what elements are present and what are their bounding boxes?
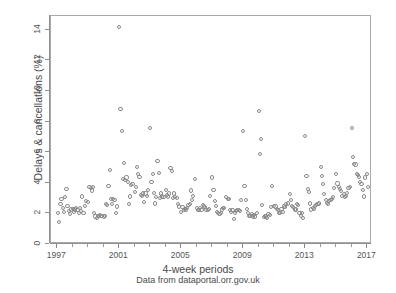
data-point — [124, 175, 128, 179]
data-point — [232, 217, 236, 221]
data-point — [227, 197, 231, 201]
data-point — [149, 180, 153, 184]
data-point — [361, 188, 365, 192]
data-point — [189, 188, 193, 192]
data-point — [322, 192, 326, 196]
data-point — [157, 171, 161, 175]
x-axis-major-tick — [118, 244, 119, 248]
data-point — [106, 184, 110, 188]
y-axis-tick-label: 0 — [32, 237, 42, 249]
data-points-layer — [51, 16, 370, 242]
data-point — [319, 165, 323, 169]
x-axis-tick-label: 2001 — [101, 250, 135, 260]
data-point — [211, 188, 215, 192]
data-point — [353, 162, 357, 166]
data-point — [296, 203, 300, 207]
data-point — [268, 213, 272, 217]
y-axis-tick — [45, 182, 49, 183]
data-point — [148, 126, 152, 130]
data-point — [117, 25, 121, 29]
data-point — [127, 202, 131, 206]
data-point — [152, 191, 156, 195]
x-axis-minor-tick — [196, 244, 197, 247]
data-point — [64, 187, 68, 191]
x-axis-minor-tick — [211, 244, 212, 247]
data-point — [365, 172, 369, 176]
x-axis-minor-tick — [351, 244, 352, 247]
data-point — [122, 161, 126, 165]
y-axis-tick — [45, 59, 49, 60]
data-point — [258, 152, 262, 156]
data-point — [135, 165, 139, 169]
data-point — [257, 109, 261, 113]
data-point — [57, 220, 61, 224]
x-axis-minor-tick — [273, 244, 274, 247]
x-axis-minor-tick — [320, 244, 321, 247]
x-axis-minor-tick — [289, 244, 290, 247]
data-point — [105, 203, 109, 207]
data-point — [304, 174, 308, 178]
data-point — [321, 182, 325, 186]
y-axis-tick — [45, 121, 49, 122]
data-point — [207, 207, 211, 211]
data-point — [83, 204, 87, 208]
data-point — [120, 129, 124, 133]
x-axis-major-tick — [366, 244, 367, 248]
x-axis-minor-tick — [258, 244, 259, 247]
data-point — [359, 182, 363, 186]
data-point — [167, 191, 171, 195]
x-axis-minor-tick — [72, 244, 73, 247]
data-point — [320, 174, 324, 178]
data-point — [108, 168, 112, 172]
x-axis-major-tick — [304, 244, 305, 248]
source-caption: Data from dataportal.orr.gov.uk — [0, 275, 396, 285]
x-axis-minor-tick — [227, 244, 228, 247]
data-point — [190, 198, 194, 202]
data-point — [151, 172, 155, 176]
x-axis-title: 4-week periods — [0, 263, 396, 275]
y-axis-title: Delays & cancellations (%) — [32, 18, 44, 218]
data-point — [350, 126, 354, 130]
data-point — [241, 129, 245, 133]
data-point — [115, 204, 119, 208]
data-point — [214, 204, 218, 208]
data-point — [270, 184, 274, 188]
data-point — [145, 194, 149, 198]
data-point — [142, 200, 146, 204]
x-axis-tick-label: 2009 — [225, 250, 259, 260]
x-axis-minor-tick — [149, 244, 150, 247]
x-axis-tick-label: 2017 — [349, 250, 383, 260]
x-axis-major-tick — [56, 244, 57, 248]
data-point — [334, 172, 338, 176]
data-point — [281, 210, 285, 214]
y-axis-line — [49, 15, 50, 243]
data-point — [259, 137, 263, 141]
data-point — [301, 216, 305, 220]
data-point — [208, 194, 212, 198]
data-point — [103, 214, 107, 218]
data-point — [303, 134, 307, 138]
x-axis-minor-tick — [335, 244, 336, 247]
data-point — [175, 196, 179, 200]
x-axis-minor-tick — [103, 244, 104, 247]
x-axis-minor-tick — [134, 244, 135, 247]
data-point — [86, 200, 90, 204]
x-axis-tick-label: 1997 — [39, 250, 73, 260]
x-axis-tick-label: 2013 — [287, 250, 321, 260]
y-axis-tick — [45, 212, 49, 213]
x-axis-minor-tick — [87, 244, 88, 247]
y-axis-tick — [45, 90, 49, 91]
data-point — [137, 175, 141, 179]
data-point — [288, 192, 292, 196]
data-point — [170, 169, 174, 173]
data-point — [357, 175, 361, 179]
data-point — [188, 202, 192, 206]
data-point — [114, 211, 118, 215]
data-point — [345, 191, 349, 195]
y-axis-tick — [45, 29, 49, 30]
data-point — [110, 202, 114, 206]
data-point — [128, 194, 132, 198]
data-point — [199, 208, 203, 212]
y-axis-tick — [45, 151, 49, 152]
data-point — [332, 186, 336, 190]
